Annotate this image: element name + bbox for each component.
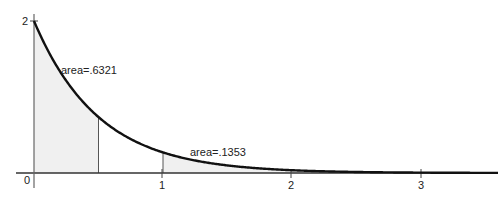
x-tick-label-0: 0 [24,174,30,186]
y-tick-label-2: 2 [22,15,28,27]
density-curve [34,21,498,173]
x-tick-label-3: 3 [418,179,424,191]
area-label-2: area=.1353 [190,146,246,158]
x-tick-label-2: 2 [288,179,294,191]
x-tick-label-1: 1 [159,179,165,191]
area-label-1: area=.6321 [61,64,117,76]
density-chart: 0 1 2 3 2 area=.6321 area=.1353 [0,0,498,205]
